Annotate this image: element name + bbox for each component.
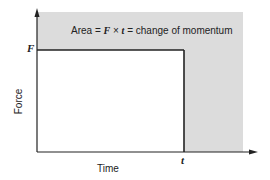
annotation-times: × bbox=[113, 25, 119, 36]
area-annotation: Area = F × t = change of momentum bbox=[71, 25, 233, 36]
annotation-prefix: Area = bbox=[71, 25, 101, 36]
y-marker-f: F bbox=[27, 42, 34, 54]
annotation-force-symbol: F bbox=[104, 25, 111, 36]
x-marker-t: t bbox=[181, 154, 184, 166]
impulse-rectangle bbox=[37, 50, 184, 152]
y-axis-label: Force bbox=[13, 82, 24, 122]
annotation-suffix: = change of momentum bbox=[127, 25, 232, 36]
annotation-time-symbol: t bbox=[122, 25, 125, 36]
x-axis-label: Time bbox=[97, 163, 119, 174]
x-axis-arrow-icon bbox=[249, 150, 258, 155]
